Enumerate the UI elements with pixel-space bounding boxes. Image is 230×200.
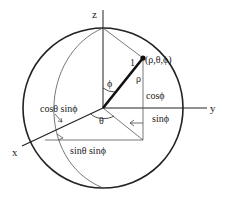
pole-to-point-line: [103, 28, 143, 58]
x-axis-label: x: [12, 146, 18, 158]
sin-phi-line: [103, 108, 143, 140]
y-axis-label: y: [210, 102, 216, 114]
cos-theta-sin-phi-label: cosθ sinϕ: [40, 103, 78, 114]
unit-radius-label: 1: [130, 57, 135, 68]
z-axis-label: z: [92, 8, 97, 20]
theta-label: θ: [99, 115, 104, 126]
sin-theta-sin-phi-label: sinθ sinϕ: [70, 145, 106, 156]
point-label: (ρ,θ,ϕ): [145, 54, 172, 66]
spherical-coordinates-diagram: z y x (ρ,θ,ϕ) 1 ρ ϕ θ cosϕ sinϕ cosθ sin…: [0, 0, 230, 200]
cos-phi-label: cosϕ: [146, 90, 165, 101]
rho-label: ρ: [136, 73, 141, 84]
phi-label: ϕ: [107, 78, 112, 89]
sin-phi-label: sinϕ: [152, 113, 169, 124]
